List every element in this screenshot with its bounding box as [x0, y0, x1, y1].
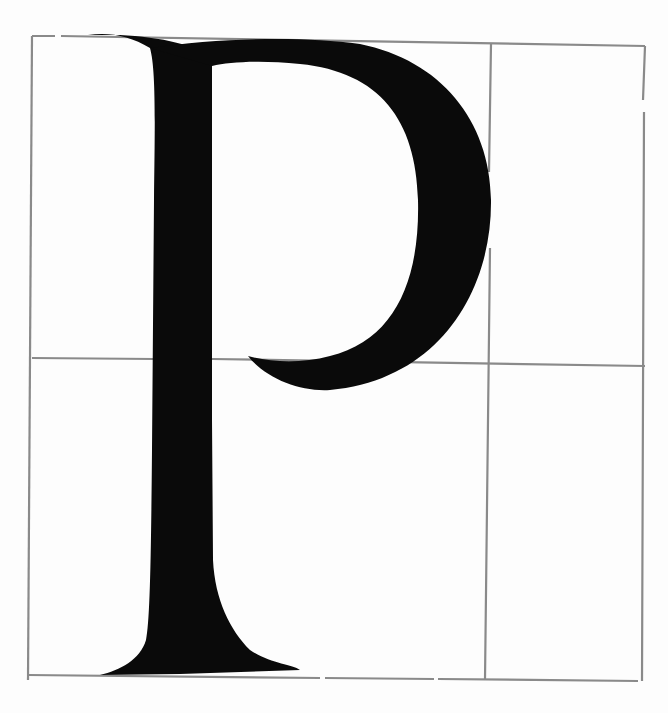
- letter-p-figure: [0, 0, 668, 713]
